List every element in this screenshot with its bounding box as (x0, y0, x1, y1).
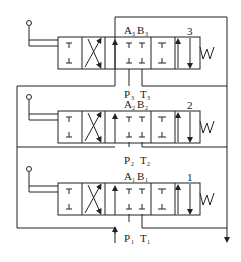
enclosure-lines (17, 17, 227, 243)
valve-number: 2 (187, 99, 193, 111)
svg-text:3: 3 (145, 31, 148, 37)
svg-text:1: 1 (147, 239, 150, 245)
svg-text:1: 1 (145, 177, 148, 183)
hydraulic-valve-diagram: A 3 B 3 3 P 3 T 3 A 2 B 2 2 (0, 0, 241, 262)
valve-3: A 3 B 3 3 (27, 21, 215, 70)
svg-text:3: 3 (147, 95, 150, 101)
spring-icon (200, 193, 214, 205)
svg-text:2: 2 (132, 105, 135, 111)
svg-text:1: 1 (132, 177, 135, 183)
svg-text:B: B (137, 170, 144, 182)
lever-handle-icon (27, 95, 32, 100)
svg-text:A: A (124, 24, 132, 36)
svg-text:B: B (137, 24, 144, 36)
svg-text:3: 3 (132, 31, 135, 37)
svg-text:2: 2 (145, 105, 148, 111)
svg-text:P: P (124, 232, 130, 244)
lever-handle-icon (27, 21, 32, 26)
svg-text:T: T (140, 232, 147, 244)
valve-2: A 2 B 2 2 (27, 95, 215, 144)
valve-number: 1 (187, 171, 193, 183)
svg-text:1: 1 (131, 239, 134, 245)
ports-p2-t2: P 2 T 2 (124, 154, 150, 167)
svg-text:P: P (124, 154, 130, 166)
svg-text:A: A (124, 98, 132, 110)
valve-1: A 1 B 1 1 (27, 167, 215, 216)
svg-text:B: B (137, 98, 144, 110)
svg-text:A: A (124, 170, 132, 182)
spring-icon (200, 47, 214, 59)
valve-number: 3 (187, 25, 193, 37)
svg-text:2: 2 (131, 161, 134, 167)
lever-handle-icon (27, 167, 32, 172)
svg-text:2: 2 (147, 161, 150, 167)
spring-icon (200, 121, 214, 133)
svg-text:T: T (140, 154, 147, 166)
ports-p1-t1: P 1 T 1 (124, 232, 150, 245)
